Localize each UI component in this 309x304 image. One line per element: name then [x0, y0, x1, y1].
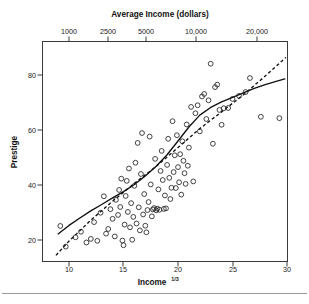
y-axis-title: Prestige [10, 135, 19, 168]
y-tick-label: 40 [28, 181, 36, 190]
figure-background [0, 0, 309, 304]
top-tick-label: 20,000 [246, 27, 268, 36]
y-tick-label: 20 [28, 236, 36, 245]
x-axis-title-base: Income [138, 278, 167, 287]
top-tick-label: 1000 [61, 27, 77, 36]
top-tick-label: 2500 [100, 27, 116, 36]
x-axis-title-exponent: 1/3 [171, 276, 179, 282]
y-tick-label: 80 [28, 71, 36, 80]
figure-container: Average Income (dollars) 1000 2500 5000 … [0, 0, 309, 304]
top-tick-label: 10,000 [185, 27, 207, 36]
top-tick-label: 5000 [138, 27, 154, 36]
top-axis-title: Average Income (dollars) [111, 10, 209, 19]
y-tick-label: 60 [28, 126, 36, 135]
prestige-income-scatterplot: Average Income (dollars) 1000 2500 5000 … [0, 0, 309, 304]
